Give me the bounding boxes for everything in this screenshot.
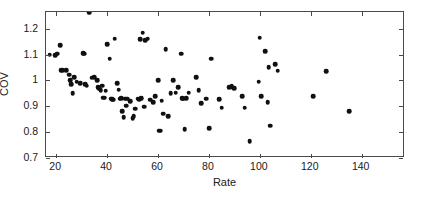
y-tick-right [399,158,403,159]
x-tick-label: 20 [49,160,61,172]
y-axis-title: COV [0,72,10,96]
x-tick-label: 100 [250,160,268,172]
scatter-plot-figure: 20406080100120140 0.70.80.911.11.2 Rate … [0,0,426,198]
y-tick-label: 1 [32,73,38,85]
y-tick-label: 1.1 [23,48,38,60]
y-tick [46,158,50,159]
y-tick-label: 0.8 [23,125,38,137]
y-tick-label: 0.7 [23,151,38,163]
x-tick-label: 120 [301,160,319,172]
x-tick-label: 80 [202,160,214,172]
x-tick-label: 40 [100,160,112,172]
y-tick-label: 0.9 [23,99,38,111]
x-axis-title: Rate [45,176,404,188]
x-tick-label: 60 [151,160,163,172]
x-tick-label: 140 [352,160,370,172]
y-tick-label: 1.2 [23,22,38,34]
y-axis-tick-labels: 0.70.80.911.11.2 [45,11,404,157]
